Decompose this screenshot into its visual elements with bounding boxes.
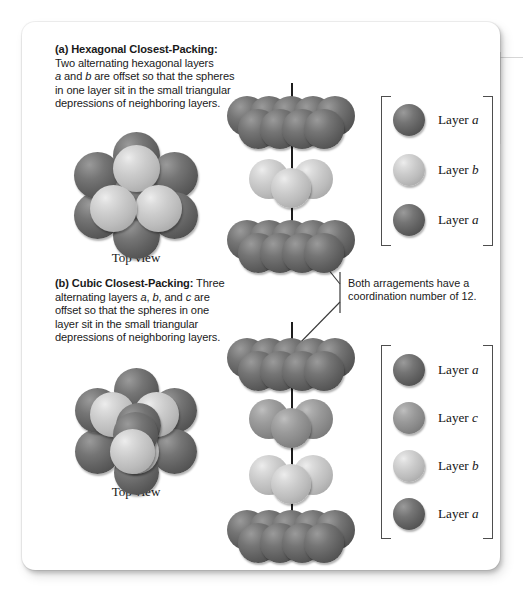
top-view-sphere-layer-b-front (110, 429, 155, 474)
annotation-line-2: coordination number of 12. (348, 290, 476, 302)
legend-label-layer-a: Layer a (438, 112, 479, 128)
page-edge-rule-vertical (500, 52, 501, 144)
caption-b-heading: Cubic Closest-Packing: (72, 277, 193, 289)
top-view-cluster-hexagonal (62, 141, 210, 249)
caption-a-line-4: depressions of neighboring layers. (55, 97, 220, 109)
legend-label-layer-a: Layer a (438, 362, 479, 378)
legend-swatch-layer-a (393, 354, 425, 386)
legend-row-layer-a: Layer a (391, 99, 491, 141)
caption-b-line-4: layer sit in the small triangular (55, 318, 198, 330)
legend-label-layer-a: Layer a (438, 506, 479, 522)
caption-b-line-1: Three (196, 277, 224, 289)
legend-bracket-left (381, 345, 391, 539)
legend-swatch-layer-a (393, 498, 425, 530)
legend-hexagonal: Layer aLayer bLayer a (381, 96, 493, 244)
legend-row-layer-a: Layer a (391, 493, 491, 535)
caption-hexagonal-closest-packing: (a) Hexagonal Closest-Packing: Two alter… (55, 43, 251, 111)
legend-row-layer-b: Layer b (391, 445, 491, 487)
stack-hcp-layer-a-3-front-4 (304, 233, 344, 273)
stack-ccp-layer-a-1-front-4 (304, 351, 344, 391)
annotation-line-1: Both arragements have a (348, 277, 469, 289)
legend-label-layer-a: Layer a (438, 212, 479, 228)
caption-a-label: (a) (55, 43, 68, 55)
caption-a-line-1: Two alternating hexagonal layers (55, 57, 214, 69)
legend-label-layer-b: Layer b (438, 458, 479, 474)
legend-label-layer-b: Layer b (438, 162, 479, 178)
top-view-cluster-cubic (62, 377, 210, 485)
stack-hcp-layer-a-1-front-4 (304, 109, 344, 149)
legend-bracket-left (381, 96, 391, 246)
legend-swatch-layer-c (393, 402, 425, 434)
legend-swatch-layer-b (393, 154, 425, 186)
stack-ccp-layer-b-3-front-1 (271, 464, 311, 504)
legend-swatch-layer-b (393, 450, 425, 482)
stack-hcp-layer-b-2-front-1 (271, 168, 311, 208)
legend-label-layer-c: Layer c (438, 410, 478, 426)
annotation-coordination-number: Both arragements have a coordination num… (348, 277, 494, 304)
top-view-sphere-layer-b-3 (90, 185, 137, 232)
legend-row-layer-a: Layer a (391, 199, 491, 241)
caption-b-line-3: offset so that the spheres in one (55, 304, 209, 316)
caption-b-line-5: depressions of neighboring layers. (55, 331, 220, 343)
legend-row-layer-b: Layer b (391, 149, 491, 191)
legend-row-layer-a: Layer a (391, 349, 491, 391)
stack-ccp-layer-a-4-front-4 (304, 523, 344, 563)
stack-hexagonal-layers (228, 88, 356, 256)
page-root: (a) Hexagonal Closest-Packing: Two alter… (0, 0, 523, 603)
legend-swatch-layer-a (393, 104, 425, 136)
legend-swatch-layer-a (393, 204, 425, 236)
stack-ccp-layer-c-2-front-1 (271, 408, 311, 448)
caption-cubic-closest-packing: (b) Cubic Closest-Packing: Three alterna… (55, 277, 251, 345)
caption-b-label: (b) (55, 277, 69, 289)
legend-row-layer-c: Layer c (391, 397, 491, 439)
caption-a-heading: Hexagonal Closest-Packing: (71, 43, 217, 55)
legend-cubic: Layer aLayer cLayer bLayer a (381, 345, 493, 537)
stack-cubic-layers (228, 330, 356, 545)
